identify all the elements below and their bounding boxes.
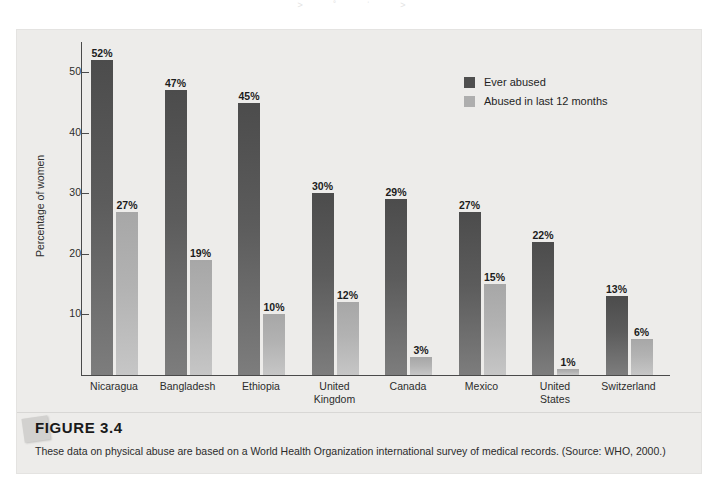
bar: 13% [606,296,628,375]
x-axis-label: Switzerland [586,380,672,393]
bar-value-label: 30% [312,180,333,192]
bar: 27% [459,212,481,375]
bar-value-label: 29% [385,186,406,198]
bar-group: 13%6% [606,42,653,375]
bar-value-label: 19% [190,247,211,259]
bar: 30% [312,193,334,375]
y-tick-label: 20 [27,247,81,259]
bar: 27% [116,212,138,375]
y-axis-title: Percentage of women [34,86,46,326]
figure-panel: Percentage of women 1020304050 52%27%47%… [17,30,701,473]
square-swatch-icon [464,77,475,88]
bar-group: 47%19% [165,42,212,375]
bar: 45% [238,103,260,375]
figure-number: FIGURE 3.4 [35,419,123,436]
bar-value-label: 27% [116,199,137,211]
bar-value-label: 1% [560,356,575,368]
y-tick-label-wrap: 20 [17,254,81,255]
bar: 52% [91,60,113,375]
bar: 29% [385,199,407,375]
bar-value-label: 12% [337,289,358,301]
y-tick-label-wrap: 50 [17,72,81,73]
y-tick-label: 40 [27,126,81,138]
bar: 22% [532,242,554,375]
legend-item-ever-abused: Ever abused [464,76,608,88]
figure-caption-block: FIGURE 3.4 These data on physical abuse … [17,412,701,473]
figure-caption-text: These data on physical abuse are based o… [35,444,685,458]
x-axis-label-line: Kingdom [292,393,378,406]
caption-divider [17,412,701,413]
legend-label: Abused in last 12 months [484,95,608,107]
bar-value-label: 10% [263,301,284,313]
bar-group: 30%12% [312,42,359,375]
legend-label: Ever abused [484,76,546,88]
x-axis-line [81,375,670,376]
bar: 19% [190,260,212,375]
bar-group: 52%27% [91,42,138,375]
y-tick-label-wrap: 40 [17,133,81,134]
bar-value-label: 3% [413,344,428,356]
bar-value-label: 27% [459,199,480,211]
y-tick-label: 10 [27,307,81,319]
bar-value-label: 47% [165,77,186,89]
y-tick-label: 50 [27,65,81,77]
bar: 3% [410,357,432,375]
bar-value-label: 45% [238,90,259,102]
legend-item-abused-last-12-months: Abused in last 12 months [464,95,608,107]
x-axis-labels: NicaraguaBangladeshEthiopiaUnitedKingdom… [82,380,670,412]
bar: 12% [337,302,359,375]
bar-value-label: 15% [484,271,505,283]
bar-value-label: 22% [532,229,553,241]
bar-value-label: 13% [606,283,627,295]
y-tick-label: 30 [27,186,81,198]
chart-legend: Ever abused Abused in last 12 months [464,76,608,114]
bar-value-label: 52% [91,47,112,59]
chart-area: Percentage of women 1020304050 52%27%47%… [17,30,701,412]
x-axis-label-line: States [512,393,598,406]
bar-group: 29%3% [385,42,432,375]
bar: 1% [557,369,579,375]
x-axis-label-line: Switzerland [586,380,672,393]
y-tick-label-wrap: 10 [17,314,81,315]
bar: 6% [631,339,653,375]
bar-group: 45%10% [238,42,285,375]
bar-value-label: 6% [634,326,649,338]
square-swatch-icon [464,96,475,107]
page-text-remnant: ˃ ˚ ˈ ˃ [0,0,717,14]
bar: 15% [484,284,506,375]
bar: 10% [263,314,285,375]
bar: 47% [165,90,187,375]
y-tick-label-wrap: 30 [17,193,81,194]
